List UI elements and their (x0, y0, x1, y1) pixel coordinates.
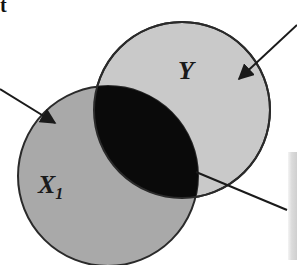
venn-diagram-svg (0, 0, 297, 265)
set-y-label-text: Y (178, 56, 194, 85)
arrow-to-x1 (0, 89, 55, 123)
set-x1-label-main: X (38, 170, 55, 199)
set-x1-label: X1 (38, 172, 63, 202)
venn-diagram-figure: t Y X1 (0, 0, 297, 265)
heading-fragment: t (0, 0, 7, 17)
set-x1-label-sub: 1 (55, 185, 63, 202)
page-edge-strip (288, 152, 297, 260)
set-y-label: Y (178, 58, 194, 84)
